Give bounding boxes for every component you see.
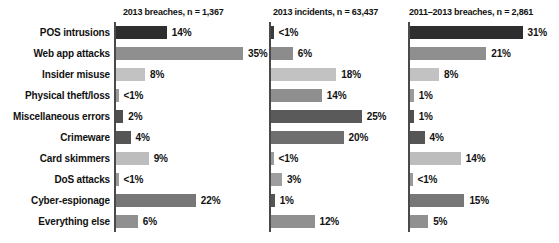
- bar-value-label: 1%: [419, 89, 433, 102]
- bar: [271, 131, 344, 144]
- bar: [410, 215, 428, 228]
- category-label: Cyber-espionage: [0, 190, 113, 211]
- category-label: Insider misuse: [0, 64, 113, 85]
- bar: [410, 173, 413, 186]
- bar-value-label: 12%: [320, 215, 340, 228]
- bar: [410, 194, 464, 207]
- bar-value-label: 6%: [298, 47, 312, 60]
- bar-value-label: <1%: [124, 173, 144, 186]
- bar-value-label: 31%: [528, 26, 548, 39]
- bar-value-label: 14%: [466, 152, 486, 165]
- bar-value-label: 14%: [172, 26, 192, 39]
- bar: [116, 173, 119, 186]
- column-header-incidents-2013: 2013 incidents, n = 63,437: [273, 7, 378, 17]
- category-label: Web app attacks: [0, 43, 113, 64]
- bar: [116, 47, 243, 60]
- bar-value-label: 2%: [128, 110, 142, 123]
- grouped-bar-chart: 2013 breaches, n = 1,367 2013 incidents,…: [0, 0, 559, 243]
- category-label: Everything else: [0, 211, 113, 232]
- bar: [116, 131, 131, 144]
- bar-value-label: 4%: [430, 131, 444, 144]
- bar-value-label: 25%: [367, 110, 387, 123]
- bar-value-label: 1%: [280, 194, 294, 207]
- column-header-breaches-2013: 2013 breaches, n = 1,367: [123, 7, 224, 17]
- bar: [116, 194, 196, 207]
- bar-value-label: 14%: [327, 89, 347, 102]
- bar: [116, 89, 119, 102]
- bar: [271, 152, 274, 165]
- column-header-breaches-2011-2013: 2011–2013 breaches, n = 2,861: [409, 7, 533, 17]
- bar: [271, 47, 293, 60]
- bar: [410, 89, 414, 102]
- bar-value-label: 20%: [349, 131, 369, 144]
- category-label-column: POS intrusions Web app attacks Insider m…: [0, 22, 113, 232]
- bar: [116, 110, 123, 123]
- bar-value-label: 21%: [491, 47, 511, 60]
- bar-value-label: 35%: [248, 47, 268, 60]
- bar-value-label: 9%: [154, 152, 168, 165]
- category-label: DoS attacks: [0, 169, 113, 190]
- bar-value-label: 5%: [433, 215, 447, 228]
- bar: [116, 152, 149, 165]
- bar-value-label: <1%: [279, 152, 299, 165]
- bar: [410, 68, 439, 81]
- bar: [271, 194, 275, 207]
- category-label: Card skimmers: [0, 148, 113, 169]
- bar: [271, 110, 362, 123]
- bar: [116, 68, 145, 81]
- bar-value-label: 4%: [136, 131, 150, 144]
- bar-value-label: <1%: [279, 26, 299, 39]
- category-label: Crimeware: [0, 127, 113, 148]
- bar: [410, 131, 425, 144]
- bar: [410, 152, 461, 165]
- bar-value-label: 8%: [150, 68, 164, 81]
- bar: [116, 215, 138, 228]
- category-label: POS intrusions: [0, 22, 113, 43]
- category-label: Miscellaneous errors: [0, 106, 113, 127]
- bar-value-label: 15%: [469, 194, 489, 207]
- bar: [271, 89, 322, 102]
- bar-value-label: 1%: [419, 110, 433, 123]
- bar: [271, 68, 336, 81]
- bar-value-label: <1%: [124, 89, 144, 102]
- bar: [410, 110, 414, 123]
- bar: [116, 26, 167, 39]
- bar-value-label: 3%: [287, 173, 301, 186]
- bar-value-label: 8%: [444, 68, 458, 81]
- bar-value-label: 22%: [201, 194, 221, 207]
- bar: [271, 215, 315, 228]
- bar: [410, 47, 486, 60]
- bar: [271, 173, 282, 186]
- bar: [410, 26, 523, 39]
- bar-value-label: 6%: [143, 215, 157, 228]
- bar-value-label: 18%: [341, 68, 361, 81]
- bar-value-label: <1%: [418, 173, 438, 186]
- bar: [271, 26, 274, 39]
- category-label: Physical theft/loss: [0, 85, 113, 106]
